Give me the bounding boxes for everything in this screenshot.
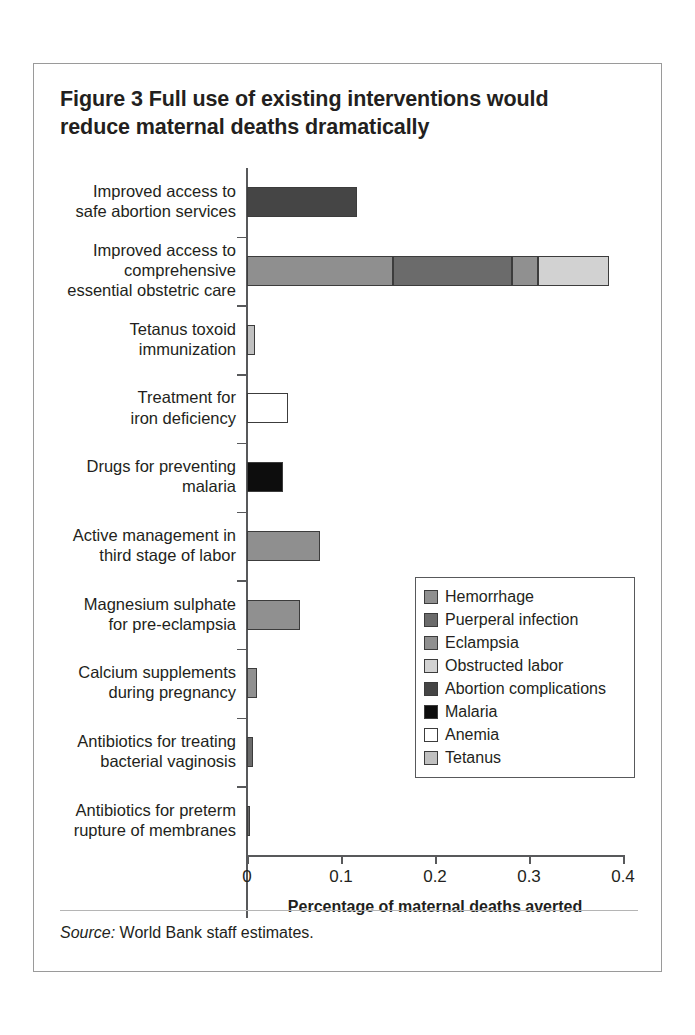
legend-swatch-icon xyxy=(424,728,438,742)
legend-item: Abortion complications xyxy=(424,677,626,700)
legend-label: Tetanus xyxy=(445,750,501,766)
category-label-line: Drugs for preventing xyxy=(34,456,236,476)
legend-item: Malaria xyxy=(424,700,626,723)
legend-label: Puerperal infection xyxy=(445,612,578,628)
category-label-line: malaria xyxy=(34,476,236,496)
bar-segment xyxy=(247,531,320,561)
legend-swatch-icon xyxy=(424,659,438,673)
category-label-line: comprehensive xyxy=(34,260,236,280)
category-label-line: Improved access to xyxy=(34,240,236,260)
bar-segment xyxy=(512,256,538,286)
y-axis-tick xyxy=(237,512,247,514)
x-axis-tick-label: 0.4 xyxy=(593,867,653,887)
chart-legend: HemorrhagePuerperal infectionEclampsiaOb… xyxy=(415,577,635,778)
bar-row: Antibiotics for pretermrupture of membra… xyxy=(34,786,663,855)
legend-item: Obstructed labor xyxy=(424,654,626,677)
legend-swatch-icon xyxy=(424,590,438,604)
x-axis-title: Percentage of maternal deaths averted xyxy=(212,898,658,916)
category-label-line: Antibiotics for preterm xyxy=(34,800,236,820)
chart-plot-area: Improved access tosafe abortion services… xyxy=(34,64,663,973)
legend-swatch-icon xyxy=(424,636,438,650)
bar-segment xyxy=(247,668,257,698)
bar-segment xyxy=(247,393,288,423)
legend-item: Eclampsia xyxy=(424,631,626,654)
x-axis-tick-label: 0.3 xyxy=(499,867,559,887)
source-text: World Bank staff estimates. xyxy=(115,924,314,941)
legend-item: Anemia xyxy=(424,723,626,746)
category-label: Calcium supplementsduring pregnancy xyxy=(34,662,236,702)
y-axis-tick xyxy=(237,786,247,788)
category-label: Active management inthird stage of labor xyxy=(34,525,236,565)
legend-item: Tetanus xyxy=(424,746,626,769)
legend-label: Eclampsia xyxy=(445,635,519,651)
category-label-line: bacterial vaginosis xyxy=(34,751,236,771)
bar-segment xyxy=(247,256,393,286)
legend-label: Abortion complications xyxy=(445,681,606,697)
legend-label: Hemorrhage xyxy=(445,589,534,605)
x-axis-tick xyxy=(247,855,249,864)
legend-item: Hemorrhage xyxy=(424,585,626,608)
category-label-line: third stage of labor xyxy=(34,545,236,565)
legend-swatch-icon xyxy=(424,751,438,765)
category-label-line: immunization xyxy=(34,339,236,359)
category-label-line: during pregnancy xyxy=(34,682,236,702)
category-label-line: safe abortion services xyxy=(34,201,236,221)
category-label: Tetanus toxoidimmunization xyxy=(34,319,236,359)
bar-segment xyxy=(247,325,255,355)
bar-segment xyxy=(247,806,250,836)
category-label-line: Improved access to xyxy=(34,181,236,201)
bar-row: Improved access tosafe abortion services xyxy=(34,168,663,237)
category-label-line: Active management in xyxy=(34,525,236,545)
source-label: Source: xyxy=(60,924,115,941)
x-axis-tick xyxy=(341,855,343,864)
y-axis-tick xyxy=(237,305,247,307)
category-label-line: Magnesium sulphate xyxy=(34,594,236,614)
x-axis-tick-label: 0 xyxy=(217,867,277,887)
legend-label: Anemia xyxy=(445,727,499,743)
bar-row: Tetanus toxoidimmunization xyxy=(34,305,663,374)
legend-swatch-icon xyxy=(424,613,438,627)
x-axis-tick-label: 0.1 xyxy=(311,867,371,887)
category-label: Improved access tosafe abortion services xyxy=(34,181,236,221)
x-axis-tick xyxy=(529,855,531,864)
category-label-line: essential obstetric care xyxy=(34,280,236,300)
category-label-line: Tetanus toxoid xyxy=(34,319,236,339)
y-axis-tick xyxy=(237,649,247,651)
y-axis-tick xyxy=(237,443,247,445)
bar-segment xyxy=(247,737,253,767)
category-label-line: iron deficiency xyxy=(34,408,236,428)
legend-item: Puerperal infection xyxy=(424,608,626,631)
legend-label: Obstructed labor xyxy=(445,658,563,674)
bar-segment xyxy=(247,462,283,492)
source-divider xyxy=(60,910,638,911)
figure-container: Figure 3 Full use of existing interventi… xyxy=(33,63,662,972)
category-label: Treatment foriron deficiency xyxy=(34,387,236,427)
category-label: Improved access tocomprehensiveessential… xyxy=(34,240,236,300)
category-label-line: for pre-eclampsia xyxy=(34,614,236,634)
legend-label: Malaria xyxy=(445,704,497,720)
source-note: Source: World Bank staff estimates. xyxy=(60,924,314,942)
bar-segment xyxy=(393,256,512,286)
bar-row: Improved access tocomprehensiveessential… xyxy=(34,237,663,306)
bar-row: Treatment foriron deficiency xyxy=(34,374,663,443)
bar-segment xyxy=(538,256,609,286)
x-axis-tick xyxy=(435,855,437,864)
legend-swatch-icon xyxy=(424,705,438,719)
y-axis-tick xyxy=(237,374,247,376)
category-label: Drugs for preventingmalaria xyxy=(34,456,236,496)
y-axis-tick xyxy=(237,237,247,239)
category-label: Antibiotics for treatingbacterial vagino… xyxy=(34,731,236,771)
category-label-line: Treatment for xyxy=(34,387,236,407)
category-label-line: Antibiotics for treating xyxy=(34,731,236,751)
legend-swatch-icon xyxy=(424,682,438,696)
bar-segment xyxy=(247,187,357,217)
x-axis-tick-label: 0.2 xyxy=(405,867,465,887)
bar-row: Drugs for preventingmalaria xyxy=(34,443,663,512)
bar-segment xyxy=(247,600,300,630)
category-label-line: Calcium supplements xyxy=(34,662,236,682)
bar-row: Active management inthird stage of labor xyxy=(34,512,663,581)
category-label-line: rupture of membranes xyxy=(34,820,236,840)
y-axis-tick xyxy=(237,718,247,720)
x-axis-tick xyxy=(623,855,625,864)
y-axis-tick xyxy=(237,580,247,582)
